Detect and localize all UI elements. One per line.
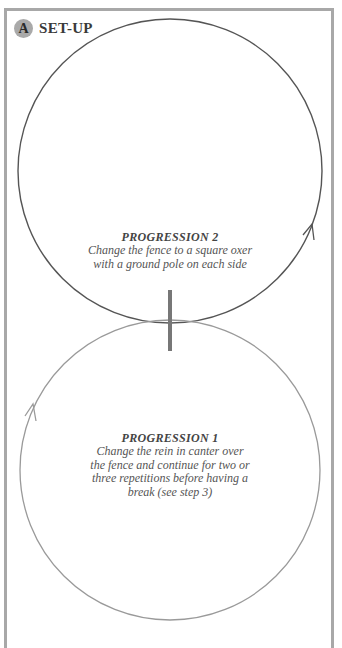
progression-heading: PROGRESSION 1 xyxy=(70,431,270,445)
progression-1-text: PROGRESSION 1 Change the rein in canter … xyxy=(70,431,270,499)
progression-line: with a ground pole on each side xyxy=(70,258,270,272)
section-title: SET-UP xyxy=(39,20,93,37)
progression-line: Change the rein in canter over xyxy=(70,445,270,459)
progression-line: the fence and continue for two or xyxy=(70,459,270,473)
progression-line: three repetitions before having a xyxy=(70,472,270,486)
section-badge: A xyxy=(14,19,33,38)
progression-line: Change the fence to a square oxer xyxy=(70,244,270,258)
progression-2-text: PROGRESSION 2 Change the fence to a squa… xyxy=(70,230,270,271)
section-header: A SET-UP xyxy=(14,19,93,38)
progression-heading: PROGRESSION 2 xyxy=(70,230,270,244)
progression-line: break (see step 3) xyxy=(70,486,270,500)
fence-icon xyxy=(168,290,172,351)
upper-circle-track xyxy=(18,19,322,323)
